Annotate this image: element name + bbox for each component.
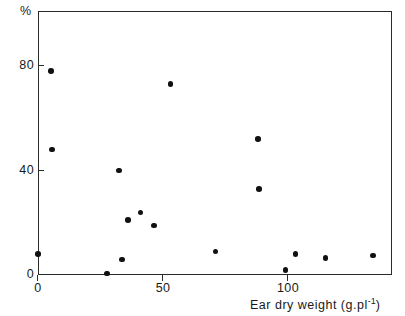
x-axis-tick-label: 0 [34, 281, 41, 295]
y-axis-tick [38, 65, 44, 66]
x-axis-tick-label: 50 [156, 281, 171, 295]
x-axis-label: Ear dry weight (g.pl-1) [250, 296, 380, 312]
y-axis-tick-label: 80 [19, 58, 34, 72]
x-axis-tick-label: 100 [277, 281, 299, 295]
x-axis-label-exponent: -1 [368, 296, 376, 306]
plot-frame [38, 11, 392, 275]
y-axis-tick [38, 274, 44, 275]
scatter-plot-figure: % Ear dry weight (g.pl-1) 04080050100 [0, 0, 405, 316]
y-axis-label: % [20, 4, 31, 18]
y-axis-tick-label: 40 [19, 163, 34, 177]
x-axis-label-tail: ) [376, 298, 381, 312]
x-axis-label-base: Ear dry weight (g.pl [250, 298, 368, 312]
y-axis-tick [38, 170, 44, 171]
y-axis-tick-label: 0 [27, 267, 34, 281]
